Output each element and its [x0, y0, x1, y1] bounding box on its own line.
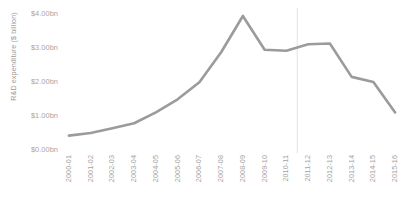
x-tick-label: 2004-05 [150, 155, 162, 201]
x-tick-label: 2002-03 [106, 155, 118, 201]
x-tick-label: 2012-13 [324, 155, 336, 201]
x-tick-label: 2013-14 [346, 155, 358, 201]
y-axis-tick-labels: $4.00bn $3.00bn $2.00bn $1.00bn $0.00bn [12, 0, 58, 213]
x-tick-label: 2001-02 [85, 155, 97, 201]
x-tick-label: 2010-11 [280, 155, 292, 201]
x-tick-label: 2003-04 [128, 155, 140, 201]
plot-svg [58, 8, 406, 153]
x-tick-label: 2014-15 [367, 155, 379, 201]
series-line-rd-expenditure [69, 16, 395, 136]
plot-area [58, 8, 406, 153]
x-tick-label: 2009-10 [259, 155, 271, 201]
x-tick-label: 2006-07 [193, 155, 205, 201]
x-tick-label: 2011-12 [302, 155, 314, 201]
y-tick-label-3: $3.00bn [14, 43, 58, 52]
x-tick-label: 2015-16 [389, 155, 401, 201]
y-tick-label-2: $2.00bn [14, 77, 58, 86]
x-tick-label: 2000-01 [63, 155, 75, 201]
x-tick-label: 2007-08 [215, 155, 227, 201]
x-axis-tick-labels: 2000-012001-022002-032003-042004-052005-… [58, 155, 406, 213]
y-tick-label-0: $0.00bn [14, 145, 58, 154]
x-tick-label: 2008-09 [237, 155, 249, 201]
y-tick-label-4: $4.00bn [14, 9, 58, 18]
line-chart: R&D expenditure ($ billion) $4.00bn $3.0… [0, 0, 409, 213]
y-tick-label-1: $1.00bn [14, 111, 58, 120]
x-tick-label: 2005-06 [172, 155, 184, 201]
